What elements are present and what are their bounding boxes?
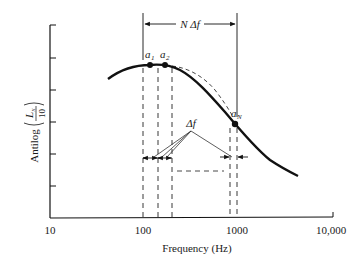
y-axis-label-prefix: Antilog bbox=[28, 129, 40, 163]
x-axis-label: Frequency (Hz) bbox=[162, 242, 232, 255]
y-axis-label: Antilog L x 10 bbox=[23, 103, 47, 163]
dashed-band-lines bbox=[143, 68, 237, 217]
x-tick-100: 100 bbox=[135, 224, 152, 236]
y-frac-numerator: L bbox=[23, 112, 35, 119]
n-delta-f-label: N Δf bbox=[179, 18, 202, 30]
bandwidth-arrows bbox=[143, 157, 248, 158]
y-axis bbox=[50, 25, 56, 218]
point-a2 bbox=[162, 62, 168, 68]
y-frac-denominator: 10 bbox=[37, 109, 47, 119]
shifted-curve-dashed bbox=[172, 66, 232, 115]
x-tick-10: 10 bbox=[45, 224, 57, 236]
label-a2-sub: 2 bbox=[166, 54, 170, 62]
label-aN-sub: N bbox=[236, 113, 242, 121]
x-tick-10000: 10,000 bbox=[316, 224, 347, 236]
x-tick-1000: 1000 bbox=[226, 224, 249, 236]
frequency-spectrum-diagram: 10 100 1000 10,000 Frequency (Hz) Antilo… bbox=[0, 0, 362, 258]
delta-f-leaders bbox=[154, 131, 232, 157]
delta-f-label: Δf bbox=[185, 117, 197, 129]
spectrum-curve bbox=[108, 65, 298, 176]
point-aN bbox=[232, 121, 238, 127]
point-a1 bbox=[147, 62, 153, 68]
x-axis bbox=[50, 212, 333, 218]
label-a1-sub: 1 bbox=[151, 54, 155, 62]
